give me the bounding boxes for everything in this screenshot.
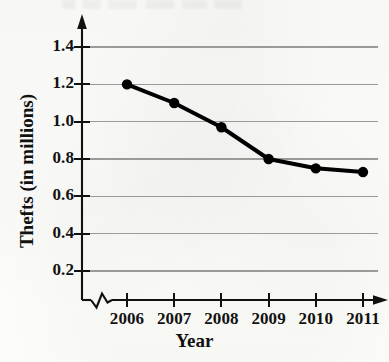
data-point-2008 (216, 122, 226, 132)
x-axis-break-zigzag-icon (91, 294, 112, 308)
x-axis-title: Year (0, 330, 389, 352)
x-axis-tick-label: 2011 (334, 309, 389, 329)
x-axis-arrow-icon (373, 295, 388, 305)
y-axis-tick-label: 1.4 (26, 36, 74, 56)
data-point-2010 (311, 163, 321, 173)
data-point-2006 (122, 79, 132, 89)
y-axis-title: Thefts (in millions) (16, 56, 38, 286)
y-axis-tick-label-wrap: 1.4 (26, 36, 74, 56)
data-point-2009 (263, 154, 273, 164)
y-axis-arrow-icon (77, 14, 87, 29)
data-point-2007 (169, 98, 179, 108)
chart-figure: 0.20.40.60.81.01.21.4 200620072008200920… (0, 0, 389, 362)
data-point-markers (122, 79, 368, 177)
data-point-2011 (358, 167, 368, 177)
